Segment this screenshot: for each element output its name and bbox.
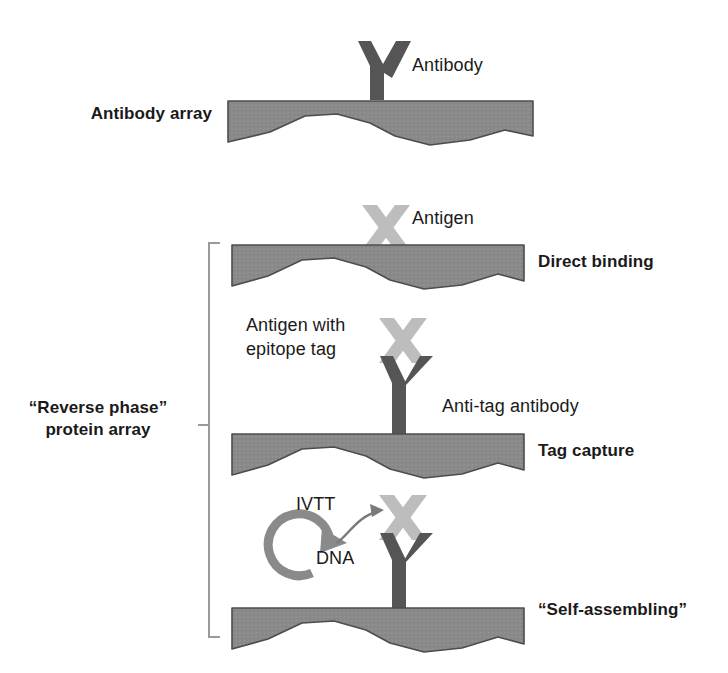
array-surface-panel1 bbox=[228, 101, 533, 145]
antibody-glyph-panel3 bbox=[380, 356, 433, 434]
array-surface-panel3 bbox=[232, 434, 524, 478]
antigen-glyph-panel2 bbox=[362, 205, 410, 250]
diagram-graphics-layer bbox=[0, 0, 728, 673]
label-reverse-phase-line2: protein array bbox=[0, 420, 196, 440]
array-surface-panel4 bbox=[232, 608, 524, 652]
reverse-phase-bracket bbox=[198, 243, 220, 637]
label-self-assembling: “Self-assembling” bbox=[538, 600, 687, 620]
label-dna: DNA bbox=[316, 548, 354, 569]
label-antigen-epitope-tag-line1: Antigen with bbox=[246, 315, 345, 336]
label-anti-tag-antibody: Anti-tag antibody bbox=[442, 396, 579, 417]
protein-array-diagram: Antibody array Antibody Antigen Direct b… bbox=[0, 0, 728, 673]
ivtt-arrow-icon bbox=[337, 504, 384, 543]
label-reverse-phase-line1: “Reverse phase” bbox=[0, 398, 196, 418]
antibody-glyph-panel4 bbox=[380, 533, 433, 608]
label-antibody: Antibody bbox=[412, 55, 483, 76]
label-direct-binding: Direct binding bbox=[538, 252, 654, 272]
label-tag-capture: Tag capture bbox=[538, 441, 634, 461]
label-antigen: Antigen bbox=[412, 208, 474, 229]
antibody-glyph-panel1 bbox=[358, 41, 411, 100]
array-surface-panel2 bbox=[232, 245, 524, 289]
label-ivtt: IVTT bbox=[296, 494, 335, 515]
label-antigen-epitope-tag-line2: epitope tag bbox=[246, 339, 336, 360]
label-antibody-array: Antibody array bbox=[0, 104, 212, 124]
